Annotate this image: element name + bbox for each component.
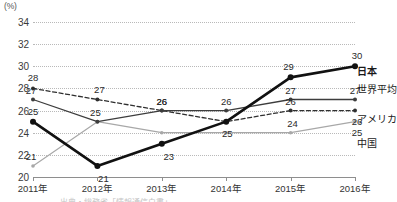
gridline-20: [33, 177, 355, 178]
y-tick-label-30: 30: [5, 61, 29, 72]
data-point-アメリカ-2015: [289, 109, 293, 113]
point-value-世界平均-2012: 25: [90, 106, 101, 117]
series-name-中国: 中国: [357, 135, 377, 150]
point-value-中国-2011: 21: [26, 150, 37, 161]
x-tick-label-2011: 2011年: [18, 181, 48, 195]
point-value-日本-2013: 23: [164, 150, 175, 161]
series-name-世界平均: 世界平均: [357, 81, 397, 96]
data-point-世界平均-2014: [224, 109, 228, 113]
point-value-日本-2011: 25: [28, 105, 39, 116]
data-point-中国-2013: [160, 131, 164, 135]
data-point-日本-2012: [94, 163, 100, 169]
x-tick-label-2015: 2015年: [275, 181, 306, 195]
data-point-中国-2011: [31, 164, 35, 168]
point-value-アメリカ-2013: 26: [157, 95, 168, 106]
plot-area: [33, 22, 355, 177]
data-point-世界平均-2012: [95, 120, 99, 124]
y-tick-label-26: 26: [5, 105, 29, 116]
point-value-アメリカ-2014: 25: [222, 127, 233, 138]
point-value-アメリカ-2012: 27: [94, 83, 105, 94]
data-point-アメリカ-2012: [95, 98, 99, 102]
y-tick-label-24: 24: [5, 127, 29, 138]
series-lines-group: [33, 22, 355, 177]
point-value-日本-2016: 30: [352, 50, 363, 61]
data-point-中国-2015: [289, 131, 293, 135]
point-value-日本-2012: 21: [98, 172, 109, 183]
series-name-日本: 日本: [357, 63, 377, 78]
data-point-日本-2011: [30, 119, 36, 125]
source-caption: 出典・総務省「情報通信白書」: [60, 196, 320, 202]
series-name-アメリカ: アメリカ: [357, 111, 397, 126]
point-value-アメリカ-2011: 28: [28, 72, 39, 83]
y-axis-unit-label: (%): [4, 1, 17, 11]
point-value-日本-2015: 29: [283, 61, 294, 72]
point-value-中国-2015: 24: [287, 117, 298, 128]
x-tick-label-2014: 2014年: [211, 181, 242, 195]
point-value-世界平均-2011: 27: [26, 84, 37, 95]
point-value-世界平均-2014: 26: [221, 95, 232, 106]
point-value-アメリカ-2015: 26: [285, 95, 296, 106]
y-tick-label-32: 32: [5, 39, 29, 50]
data-point-世界平均-2013: [160, 109, 164, 113]
data-point-日本-2014: [223, 119, 229, 125]
y-tick-label-34: 34: [5, 17, 29, 28]
x-tick-label-2016: 2016年: [339, 181, 370, 195]
x-tick-label-2013: 2013年: [146, 181, 177, 195]
data-point-日本-2015: [288, 74, 294, 80]
data-point-世界平均-2011: [31, 98, 35, 102]
data-point-世界平均-2016: [353, 98, 357, 102]
data-point-日本-2013: [159, 141, 165, 147]
point-value-世界平均-2015: 27: [285, 84, 296, 95]
series-line-中国: [33, 122, 355, 166]
